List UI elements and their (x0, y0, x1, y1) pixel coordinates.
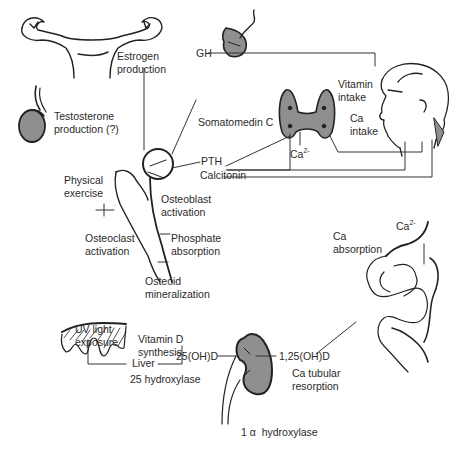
label-calcitonin: Calcitonin (200, 169, 246, 182)
testis-icon (19, 86, 46, 142)
label-pth: PTH (201, 155, 222, 168)
label-ca2-thyroid: Ca2- (290, 145, 310, 160)
label-ca-tubular-resorption: Ca tubular resorption (292, 367, 340, 392)
label-vitamin-intake: Vitamin intake (338, 78, 373, 103)
thyroid-icon (279, 90, 334, 138)
calcium-metabolism-diagram: Estrogen production Testosterone product… (0, 0, 458, 449)
kidney-icon (222, 334, 272, 424)
label-somatomedin-c: Somatomedin C (198, 116, 273, 129)
label-estrogen-production: Estrogen production (117, 50, 166, 75)
label-ca-intake: Ca intake (350, 112, 378, 137)
label-liver: Liver (132, 357, 155, 370)
label-osteoclast-activation: Osteoclast activation (85, 232, 135, 257)
label-1-alpha-hydroxylase: 1 α hydroxylase (241, 426, 318, 439)
label-uv-light-exposure: UV light exposure (75, 323, 118, 348)
label-osteoblast-activation: Osteoblast activation (161, 193, 211, 218)
label-testosterone-production: Testosterone production (?) (54, 110, 119, 135)
label-1-25-oh-d: 1,25(OH)D (279, 350, 330, 363)
head-icon (380, 64, 449, 156)
label-25-hydroxylase: 25 hydroxylase (130, 373, 201, 386)
diagram-drawing (0, 0, 458, 449)
label-osteoid-mineralization: Osteoid mineralization (145, 275, 210, 300)
label-ca-absorption: Ca absorption (333, 230, 382, 255)
label-physical-exercise: Physical exercise (64, 174, 103, 199)
pituitary-icon (223, 10, 255, 57)
label-gh: GH (196, 47, 212, 60)
label-phosphate-absorption: Phosphate absorption (171, 232, 221, 257)
label-25-oh-d: 25(OH)D (176, 350, 218, 363)
connector-lines (88, 53, 432, 364)
label-ca2-gut: Ca2- (396, 217, 416, 232)
